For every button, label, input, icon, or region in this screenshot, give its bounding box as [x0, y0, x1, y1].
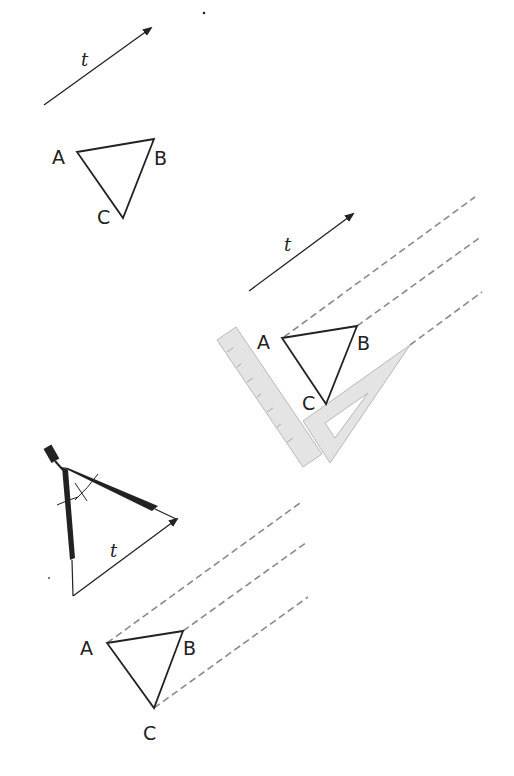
vertex-a-label: A: [52, 146, 65, 168]
vector-t-label: t: [81, 49, 89, 70]
parallel-dashed-lines: [284, 197, 482, 345]
vector-t-arrow: [73, 519, 177, 596]
compass-icon: [44, 445, 176, 596]
vertex-b-label: B: [357, 332, 370, 354]
step1-group: t A B C: [44, 28, 167, 228]
vector-t-label: t: [284, 234, 292, 255]
vector-t-label: t: [110, 540, 118, 561]
speck: [48, 577, 50, 579]
triangle-abc: [77, 139, 154, 218]
triangle-abc: [107, 631, 183, 708]
vector-t-arrow: [44, 28, 151, 105]
translation-diagram: t A B C t A: [0, 0, 514, 776]
vertex-c-label: C: [143, 722, 156, 744]
vertex-c-label: C: [97, 206, 110, 228]
vector-t-arrow: [249, 214, 353, 291]
vertex-a-label: A: [257, 331, 270, 353]
speck: [203, 12, 206, 15]
parallel-dashed-lines: [107, 503, 308, 708]
vertex-c-label: C: [302, 392, 315, 414]
vertex-b-label: B: [183, 637, 196, 659]
set-square: [303, 345, 410, 463]
vertex-a-label: A: [80, 637, 93, 659]
step2-group: t A B C: [217, 197, 482, 467]
vertex-b-label: B: [154, 147, 167, 169]
step3-group: t A B C: [44, 445, 308, 744]
